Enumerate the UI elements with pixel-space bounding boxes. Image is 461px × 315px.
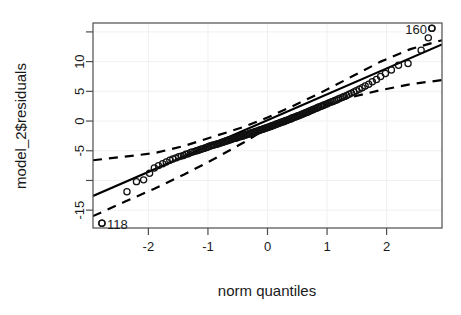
point-label: 118	[107, 217, 128, 232]
point-label: 160	[405, 22, 427, 37]
x-tick-label: 0	[264, 239, 271, 254]
y-axis-title: model_2$residuals	[12, 63, 29, 189]
y-tick-label: -5	[73, 145, 88, 157]
x-tick-label: 2	[383, 239, 390, 254]
x-axis-title: norm quantiles	[218, 282, 316, 299]
figure-background	[0, 0, 461, 315]
y-tick-label: 10	[73, 54, 88, 68]
y-tick-label: 5	[73, 88, 88, 95]
x-tick-label: 1	[323, 239, 330, 254]
x-tick-label: -1	[202, 239, 214, 254]
qq-plot-figure: -2-1012 1050-5-15 160118 norm quantiles …	[0, 0, 461, 315]
y-tick-label: -15	[73, 201, 88, 220]
chart-canvas: -2-1012 1050-5-15 160118 norm quantiles …	[0, 0, 461, 315]
x-tick-label: -2	[143, 239, 155, 254]
y-tick-label: 0	[73, 117, 88, 124]
